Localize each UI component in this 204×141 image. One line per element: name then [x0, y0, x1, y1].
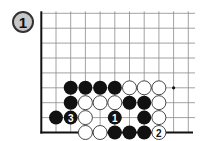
white-stone: [152, 111, 166, 125]
black-stone: [137, 126, 151, 140]
white-stone: [152, 96, 166, 110]
white-stone: [152, 81, 166, 95]
black-stone: [93, 81, 107, 95]
black-stone: [49, 111, 63, 125]
black-stone: [108, 126, 122, 140]
black-stone: [137, 96, 151, 110]
black-stone: [137, 111, 151, 125]
black-stone: 3: [64, 111, 78, 125]
black-stone: [64, 81, 78, 95]
white-stone: [137, 81, 151, 95]
white-stone: 2: [152, 126, 166, 140]
board-stones: 312: [49, 81, 166, 140]
move-number-label: 2: [156, 128, 162, 139]
point-marker-dot: [172, 86, 175, 89]
white-stone: [108, 96, 122, 110]
black-stone: [78, 81, 92, 95]
white-stone: [78, 111, 92, 125]
black-stone: [64, 96, 78, 110]
black-stone: [123, 126, 137, 140]
white-stone: [93, 126, 107, 140]
white-stone: [123, 81, 137, 95]
move-number-label: 3: [68, 113, 74, 124]
go-board-diagram: 312: [0, 0, 204, 141]
white-stone: [93, 96, 107, 110]
move-number-label: 1: [112, 113, 118, 124]
black-stone: 1: [108, 111, 122, 125]
white-stone: [78, 96, 92, 110]
black-stone: [123, 96, 137, 110]
white-stone: [78, 126, 92, 140]
black-stone: [108, 81, 122, 95]
board-markers: [172, 86, 175, 89]
